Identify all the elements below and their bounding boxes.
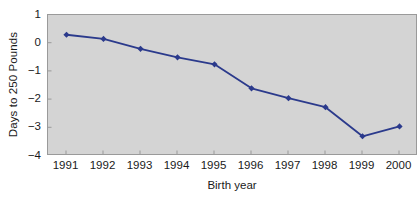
y-axis-tick-label: 0 [24,37,41,49]
y-axis-tick-label: −3 [24,121,41,133]
y-axis-label: Days to 250 Pounds [4,14,22,155]
y-axis-tick-label: −2 [24,93,41,105]
x-axis-tick-label: 1998 [312,160,338,172]
x-axis-tick-label: 1996 [238,160,264,172]
y-axis-tick-label: −1 [24,65,41,77]
x-axis-tick-label: 1999 [349,160,375,172]
data-series-line [48,15,418,156]
data-point-marker [174,54,180,60]
y-axis-tick-label: 1 [24,9,41,21]
x-axis-tick-label: 1994 [164,160,190,172]
x-axis-tick-label: 1995 [201,160,227,172]
x-axis-label: Birth year [47,180,417,192]
data-point-marker [285,95,291,101]
x-axis-tick-label: 1992 [90,160,116,172]
chart-figure: Days to 250 Pounds 10−1−2−3−4 1991199219… [0,0,420,203]
x-axis-tick-label: 1993 [127,160,153,172]
series-line [67,35,400,137]
x-axis-tick-labels: 1991199219931994199519961997199819992000 [0,160,420,176]
plot-area [47,14,417,155]
x-axis-tick-label: 1991 [53,160,79,172]
x-axis-tick-label: 2000 [386,160,412,172]
data-point-marker [137,46,143,52]
x-axis-tick-label: 1997 [275,160,301,172]
data-point-marker [100,36,106,42]
data-point-marker [396,123,402,129]
data-point-marker [63,32,69,38]
